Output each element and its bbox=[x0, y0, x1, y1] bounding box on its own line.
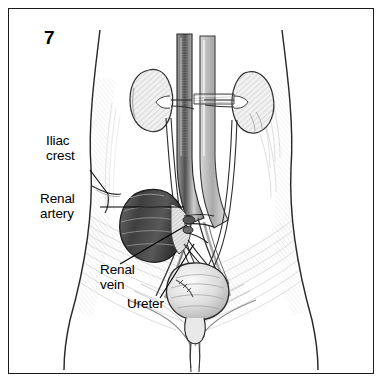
figure-container: 7 bbox=[0, 0, 384, 384]
label-iliac-crest: Iliac crest bbox=[46, 133, 75, 163]
left-kidney-upper bbox=[232, 72, 274, 133]
label-ureter: Ureter bbox=[127, 296, 164, 311]
label-renal-vein: Renal vein bbox=[100, 262, 135, 292]
label-renal-artery: Renal artery bbox=[40, 191, 75, 221]
